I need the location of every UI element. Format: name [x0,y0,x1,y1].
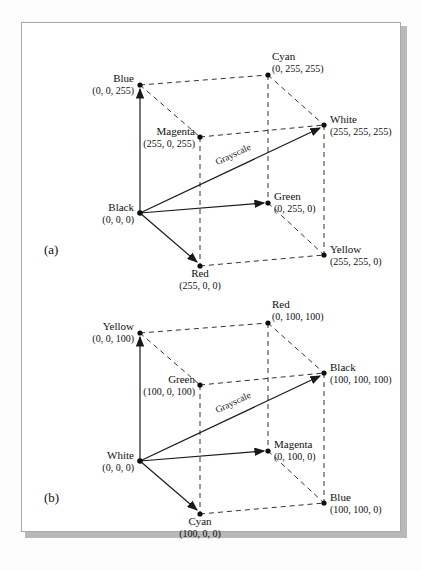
vertex-name: Green [274,191,316,203]
vertex-tuple: (0, 0, 255) [22,85,134,97]
vertex-label-white-b: White (0, 0, 0) [22,450,134,473]
vertex-tuple: (0, 100, 0) [274,451,316,463]
vertex-tuple: (255, 255, 0) [330,256,382,268]
vertex-tuple: (0, 255, 0) [274,203,316,215]
vertex-name: Magenta [274,439,316,451]
vertex-name: Magenta [22,126,195,138]
vertex-name: Cyan [272,51,324,63]
vertex-label-black-a: Black (0, 0, 0) [22,202,134,225]
vertex-label-blue-a: Blue (0, 0, 255) [22,73,134,96]
cube-diagram-b [22,271,402,526]
vertex-tuple: (0, 255, 255) [272,63,324,75]
vertex-label-magenta-a: Magenta (255, 0, 255) [22,126,195,149]
vertex-tuple: (100, 100, 100) [330,374,392,386]
figure-page: Grayscale Blue (0, 0, 255) Cyan (0, 255,… [0,0,422,571]
vertex-label-yellow-b: Yellow (0, 0, 100) [22,321,134,344]
vertex-name: Blue [22,73,134,85]
vertex-name: Yellow [330,244,382,256]
cube-edges-solid-b [140,337,320,510]
cube-diagram-a [22,23,402,278]
panel-a: Grayscale Blue (0, 0, 255) Cyan (0, 255,… [22,23,402,278]
vertex-label-green-a: Green (0, 255, 0) [274,191,316,214]
vertex-name: Black [330,362,392,374]
vertex-tuple: (255, 255, 255) [330,126,392,138]
vertex-name: White [330,114,392,126]
vertex-name: Yellow [22,321,134,333]
vertex-label-blue-b: Blue (100, 100, 0) [330,492,382,515]
vertex-tuple: (100, 100, 0) [330,504,382,516]
vertex-tuple: (0, 0, 0) [22,462,134,474]
cube-edges-solid-a [140,89,320,262]
panel-b: Grayscale Yellow (0, 0, 100) Red (0, 100… [22,271,402,526]
vertex-label-cyan-a: Cyan (0, 255, 255) [272,51,324,74]
vertex-tuple: (100, 0, 100) [22,386,195,398]
vertex-label-black-b: Black (100, 100, 100) [330,362,392,385]
vertex-name: Red [272,299,324,311]
vertex-tuple: (100, 0, 0) [150,528,250,540]
vertex-label-white-a: White (255, 255, 255) [330,114,392,137]
vertex-label-magenta-b: Magenta (0, 100, 0) [274,439,316,462]
vertex-label-red-b: Red (0, 100, 100) [272,299,324,322]
vertex-tuple: (0, 0, 0) [22,214,134,226]
vertex-tuple: (0, 100, 100) [272,311,324,323]
vertex-label-green-b: Green (100, 0, 100) [22,374,195,397]
vertex-tuple: (0, 0, 100) [22,333,134,345]
vertex-name: Green [22,374,195,386]
vertex-tuple: (255, 0, 255) [22,138,195,150]
vertex-name: Blue [330,492,382,504]
vertex-name: White [22,450,134,462]
panel-tag-a: (a) [44,242,58,258]
vertex-name: Cyan [150,516,250,528]
vertex-label-yellow-a: Yellow (255, 255, 0) [330,244,382,267]
vertex-name: Black [22,202,134,214]
figure-frame: Grayscale Blue (0, 0, 255) Cyan (0, 255,… [21,22,401,532]
panel-tag-b: (b) [44,490,59,506]
vertex-label-cyan-b: Cyan (100, 0, 0) [150,516,250,539]
